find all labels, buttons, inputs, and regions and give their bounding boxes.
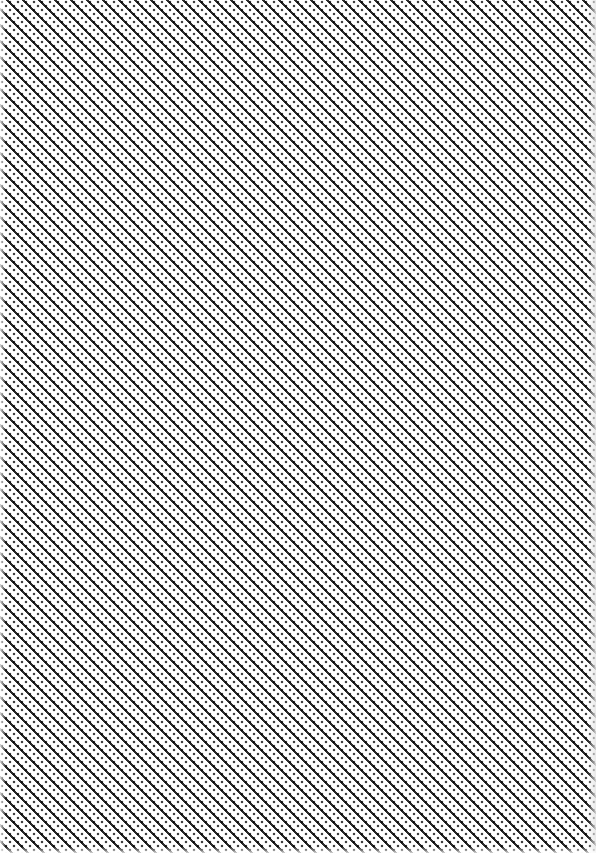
- pixel-dot-pattern: [0, 0, 596, 853]
- left-edge-fade: [0, 0, 6, 853]
- bottom-edge-fade: [0, 847, 596, 853]
- pattern-canvas: [0, 0, 596, 853]
- right-edge-fade: [588, 0, 596, 853]
